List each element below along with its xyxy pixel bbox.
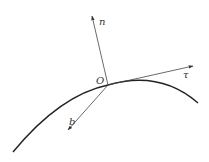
frenet-frame-diagram: n O τ b bbox=[0, 0, 209, 162]
normal-label: n bbox=[99, 16, 105, 27]
tangent-vector-arrow bbox=[108, 66, 193, 85]
tangent-label: τ bbox=[183, 69, 189, 80]
binormal-label: b bbox=[69, 116, 75, 127]
origin-label: O bbox=[96, 75, 104, 86]
curve bbox=[13, 80, 198, 152]
